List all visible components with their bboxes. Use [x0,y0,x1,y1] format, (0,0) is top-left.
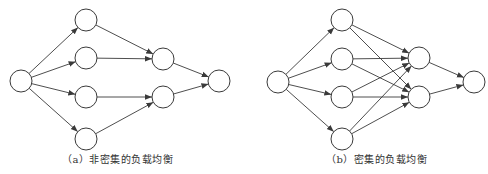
node-dst [463,71,485,93]
load-balancing-diagrams [0,0,488,174]
edge-l4-m1 [350,66,412,131]
node-l4 [75,128,97,150]
node-l1 [75,9,97,31]
node-l1 [331,9,353,31]
edge-m1-dst [429,62,464,77]
node-m1 [152,48,174,70]
dense-load-balancing-graph [267,9,485,150]
edge-src-l3 [289,85,332,95]
caption-non-dense-load-balancing: （a）非密集的负载均衡 [62,151,173,166]
edge-m1-dst [173,63,209,77]
edge-l2-m1 [97,58,152,59]
node-l3 [331,86,353,108]
edge-l1-m1 [96,25,153,54]
node-m2 [408,86,430,108]
caption-dense-load-balancing: （b）密集的负载均衡 [326,151,427,166]
node-dst [208,70,230,92]
node-src [10,70,32,92]
node-l3 [75,86,97,108]
edge-src-l2 [31,62,75,78]
edge-src-l4 [29,88,78,131]
edge-l4-m2 [96,102,154,133]
node-m2 [152,86,174,108]
node-l2 [331,48,353,70]
edge-src-l4 [286,89,334,131]
edge-l4-m2 [352,102,410,133]
node-m1 [408,47,430,69]
non-dense-load-balancing-graph [10,9,230,150]
node-l4 [331,128,353,150]
edge-m2-dst [430,85,464,94]
node-src [267,71,289,93]
edge-src-l1 [286,28,334,75]
node-l2 [75,47,97,69]
edge-m2-dst [174,84,209,94]
edge-src-l3 [32,84,76,95]
edge-l2-m1 [353,58,408,59]
edge-src-l1 [29,28,78,74]
